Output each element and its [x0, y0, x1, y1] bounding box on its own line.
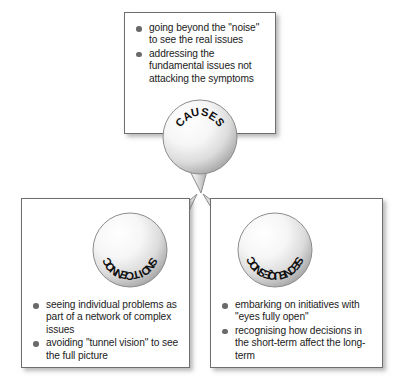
- balloons-layer: [0, 0, 409, 391]
- connections-balloon: [93, 213, 167, 287]
- consequences-balloon: [238, 213, 312, 287]
- causes-balloon: [163, 100, 237, 174]
- diagram-canvas: going beyond the "noise" to see the real…: [0, 0, 409, 391]
